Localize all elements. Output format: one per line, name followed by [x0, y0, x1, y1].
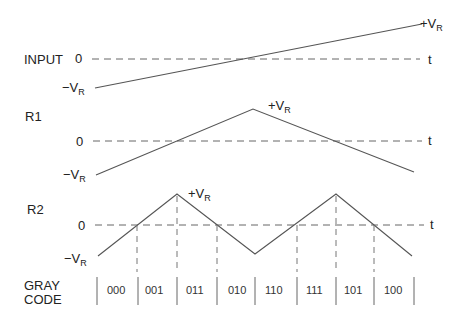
- r2-zero-label: 0: [78, 218, 85, 233]
- gray-code-row: GRAY CODE 000 001 011 010 110 111 101 10…: [24, 277, 414, 307]
- input-pos-vr-label: +VR: [420, 16, 443, 33]
- r2-pos-vr-label: +VR: [188, 186, 211, 203]
- input-zero-label: 0: [75, 51, 82, 66]
- gray-code-label-line2: CODE: [24, 292, 62, 307]
- gray-code-cell: 011: [186, 284, 204, 296]
- r2-time-label: t: [430, 217, 434, 232]
- input-time-label: t: [428, 52, 432, 67]
- r1-fold-line: [96, 109, 414, 175]
- input-ramp-line: [95, 24, 422, 88]
- gray-code-cell: 000: [107, 284, 125, 296]
- input-label: INPUT: [24, 52, 63, 67]
- gray-code-cell: 100: [384, 284, 402, 296]
- gray-code-cell: 101: [344, 284, 362, 296]
- r1-zero-label: 0: [76, 134, 83, 149]
- input-neg-vr-label: −VR: [62, 80, 85, 97]
- gray-code-label-line1: GRAY: [24, 278, 60, 293]
- r1-waveform-group: R1 0 t −VR +VR: [25, 98, 432, 184]
- r2-neg-vr-label: −VR: [64, 251, 87, 268]
- r2-label: R2: [27, 202, 44, 217]
- gray-code-cell: 001: [145, 284, 163, 296]
- r1-neg-vr-label: −VR: [63, 167, 86, 184]
- gray-code-cell: 010: [228, 284, 246, 296]
- transition-markers: [137, 196, 374, 272]
- r1-time-label: t: [428, 133, 432, 148]
- gray-code-cell: 111: [306, 284, 323, 296]
- gray-code-cell: 110: [265, 284, 283, 296]
- r1-pos-vr-label: +VR: [268, 98, 291, 115]
- input-waveform-group: INPUT 0 t −VR +VR: [24, 16, 443, 97]
- r1-label: R1: [25, 109, 42, 124]
- r2-waveform-group: R2 0 t −VR +VR: [27, 186, 434, 268]
- folding-adc-diagram: INPUT 0 t −VR +VR R1 0 t −VR +VR R2 0 t …: [0, 0, 463, 323]
